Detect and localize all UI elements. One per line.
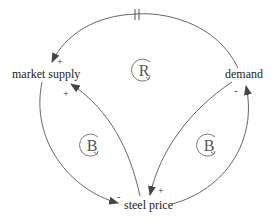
polarity-demand-steel-price: + (158, 186, 164, 196)
node-steel-price: steel price (124, 199, 173, 211)
loop-label-r: R (129, 63, 159, 79)
polarity-market-supply-steel-price: - (117, 192, 120, 202)
node-demand: demand (225, 68, 263, 80)
diagram-canvas (0, 0, 273, 221)
polarity-steel-price-market-supply: + (63, 89, 69, 99)
polarity-demand-market-supply: + (57, 57, 63, 67)
polarity-steel-price-demand: - (234, 86, 237, 96)
node-market-supply: market supply (12, 68, 80, 80)
loop-label-b2: B (194, 138, 224, 154)
loop-label-b1: B (77, 138, 107, 154)
